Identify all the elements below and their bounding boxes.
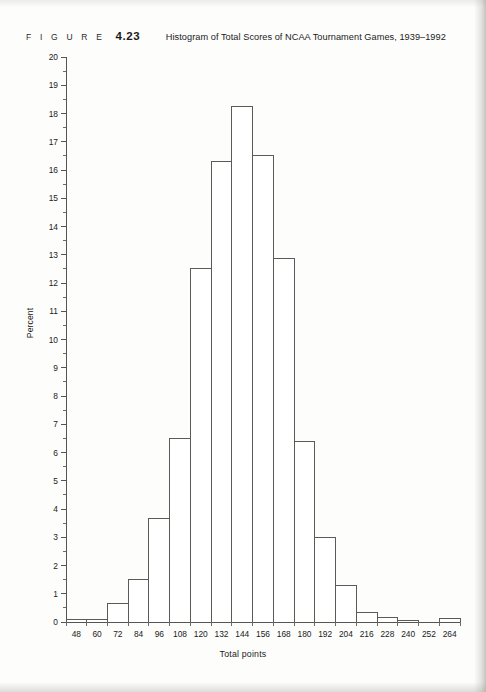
y-axis-tick-label: 10	[49, 335, 59, 345]
x-axis-tick-label: 144	[235, 629, 249, 639]
x-axis-tick-label: 168	[277, 629, 291, 639]
y-axis-tick-label: 18	[49, 109, 59, 119]
x-axis-tick-label: 96	[155, 629, 165, 639]
y-axis: 01234567891011121314151617181920	[49, 52, 66, 627]
y-axis-tick-label: 7	[53, 419, 58, 429]
x-axis-tick-label: 240	[401, 629, 415, 639]
x-axis-tick-label: 48	[72, 629, 82, 639]
y-axis-tick-label: 11	[49, 306, 58, 316]
y-axis-tick-label: 15	[49, 193, 59, 203]
y-axis-tick-label: 16	[49, 165, 59, 175]
y-axis-tick-label: 5	[53, 476, 58, 486]
x-axis-tick-label: 108	[173, 629, 187, 639]
x-axis-tick-label: 120	[194, 629, 208, 639]
histogram-svg: 01234567891011121314151617181920 4860728…	[0, 0, 486, 692]
histogram-bar	[149, 519, 170, 622]
x-axis-tick-label: 216	[360, 629, 374, 639]
y-axis-tick-label: 19	[49, 80, 59, 90]
histogram-bar	[439, 619, 460, 622]
histogram-bar	[273, 259, 294, 622]
x-axis-tick-label: 204	[339, 629, 353, 639]
x-axis-tick-label: 252	[422, 629, 436, 639]
y-axis-tick-label: 4	[53, 504, 58, 514]
x-axis-tick-label: 72	[113, 629, 123, 639]
y-axis-tick-label: 20	[49, 52, 59, 62]
histogram-bar	[294, 441, 315, 622]
y-axis-tick-label: 0	[53, 617, 58, 627]
x-axis-tick-label: 264	[443, 629, 457, 639]
histogram-bars	[66, 106, 460, 622]
y-axis-tick-label: 9	[53, 363, 58, 373]
x-axis-tick-label: 84	[134, 629, 144, 639]
x-axis-tick-label: 132	[215, 629, 229, 639]
y-axis-tick-label: 12	[49, 278, 59, 288]
x-axis-title: Total points	[0, 649, 486, 659]
histogram-bar	[232, 106, 253, 622]
histogram-bar	[107, 604, 128, 622]
y-axis-tick-label: 3	[53, 532, 58, 542]
x-axis-tick-label: 156	[256, 629, 270, 639]
histogram-bar	[211, 162, 232, 622]
y-axis-tick-label: 13	[49, 250, 59, 260]
histogram-bar	[336, 585, 357, 622]
y-axis-title: Percent	[25, 288, 35, 358]
y-axis-tick-label: 2	[53, 561, 58, 571]
histogram-bar	[377, 618, 398, 622]
x-axis-tick-label: 228	[380, 629, 394, 639]
histogram-bar	[128, 580, 149, 622]
histogram-bar	[253, 156, 274, 622]
x-axis-tick-label: 192	[318, 629, 332, 639]
histogram-figure: 01234567891011121314151617181920 4860728…	[0, 0, 486, 692]
histogram-bar	[356, 612, 377, 622]
y-axis-tick-label: 8	[53, 391, 58, 401]
histogram-bar	[170, 438, 191, 622]
y-axis-tick-label: 14	[49, 222, 59, 232]
y-axis-tick-label: 1	[53, 589, 58, 599]
x-axis: 4860728496108120132144156168180192204216…	[66, 622, 460, 639]
x-axis-tick-label: 60	[92, 629, 102, 639]
y-axis-tick-label: 6	[53, 448, 58, 458]
y-axis-tick-label: 17	[49, 137, 59, 147]
histogram-bar	[315, 537, 336, 622]
histogram-bar	[190, 269, 211, 622]
x-axis-tick-label: 180	[297, 629, 311, 639]
